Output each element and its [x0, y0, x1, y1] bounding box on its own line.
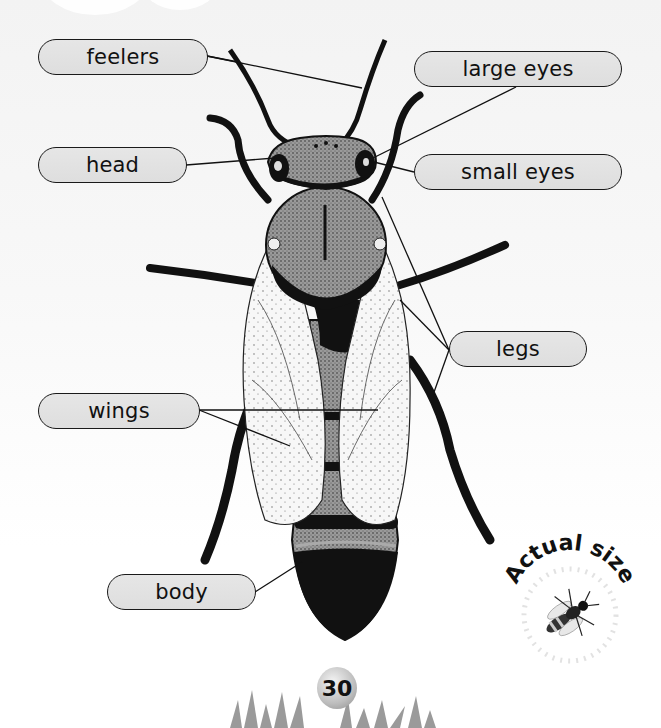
- label-small-eyes: small eyes: [414, 154, 622, 190]
- label-wings: wings: [38, 393, 200, 429]
- label-feelers: feelers: [38, 39, 208, 75]
- label-legs: legs: [449, 331, 587, 367]
- label-body: body: [107, 574, 256, 610]
- feelers-drawing: [230, 40, 385, 148]
- actual-size-badge: Actual size: [490, 530, 650, 680]
- badge-text: Actual size: [499, 530, 641, 587]
- label-head: head: [38, 147, 187, 183]
- label-large-eyes: large eyes: [414, 51, 622, 87]
- page-number: 30: [317, 667, 357, 709]
- small-eyes: [314, 144, 318, 148]
- small-bee-icon: [533, 578, 608, 651]
